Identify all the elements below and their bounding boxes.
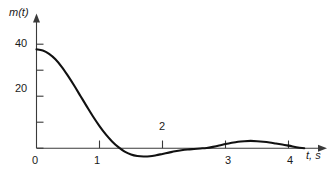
x-tick-label-0: 0 — [32, 155, 38, 166]
x-tick-label-2: 2 — [159, 121, 165, 132]
response-curve — [37, 49, 289, 156]
y-tick-label-40: 40 — [15, 38, 27, 49]
chart-figure: m(t) t, s 40 20 0 1 2 3 4 — [0, 0, 334, 177]
x-tick-label-4: 4 — [287, 155, 293, 166]
y-tick-label-20: 20 — [15, 83, 27, 94]
x-axis-label: t, s — [306, 150, 321, 161]
y-axis-arrow-icon — [33, 14, 40, 23]
y-axis-ticks — [37, 44, 44, 148]
x-tick-label-1: 1 — [94, 155, 100, 166]
y-axis — [33, 14, 40, 149]
x-tick-label-3: 3 — [225, 155, 231, 166]
y-axis-label: m(t) — [9, 7, 29, 18]
chart-plot-area — [0, 0, 334, 177]
